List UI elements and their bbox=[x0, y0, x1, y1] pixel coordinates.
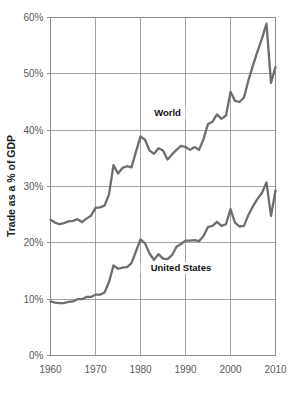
y-tick-label: 10% bbox=[23, 294, 43, 305]
series-inline-labels: WorldUnited States bbox=[141, 107, 222, 274]
y-axis-title: Trade as a % of GDP bbox=[5, 135, 17, 237]
x-tick-label: 1970 bbox=[84, 364, 107, 375]
series-label-united-states: United States bbox=[151, 262, 212, 273]
x-tick-label: 1960 bbox=[39, 364, 62, 375]
x-axis-tick-labels: 196019701980199020002010 bbox=[39, 364, 287, 375]
x-tick-label: 1980 bbox=[129, 364, 152, 375]
y-tick-label: 60% bbox=[23, 12, 43, 23]
x-tick-label: 2010 bbox=[264, 364, 287, 375]
chart-canvas: 0%10%20%30%40%50%60% 1960197019801990200… bbox=[0, 0, 288, 403]
x-tick-label: 1990 bbox=[174, 364, 197, 375]
y-tick-label: 30% bbox=[23, 181, 43, 192]
series-label-world: World bbox=[154, 107, 181, 118]
y-tick-label: 0% bbox=[29, 350, 44, 361]
y-tick-label: 20% bbox=[23, 237, 43, 248]
y-tick-label: 50% bbox=[23, 68, 43, 79]
y-axis-tick-labels: 0%10%20%30%40%50%60% bbox=[23, 12, 43, 361]
x-tick-label: 2000 bbox=[219, 364, 242, 375]
y-axis-ticks bbox=[47, 18, 51, 356]
series-line-world bbox=[51, 24, 276, 225]
trade-share-of-gdp-chart: 0%10%20%30%40%50%60% 1960197019801990200… bbox=[0, 0, 288, 403]
y-tick-label: 40% bbox=[23, 125, 43, 136]
